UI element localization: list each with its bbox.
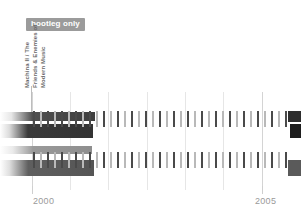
tick-row-lower xyxy=(0,152,301,168)
lower-tick-19 xyxy=(166,152,168,168)
lower-tick-13 xyxy=(124,152,126,168)
lower-tick-23 xyxy=(194,152,196,168)
gridline-3 xyxy=(147,92,148,190)
upper-tick-7 xyxy=(82,111,84,127)
lower-tick-35 xyxy=(278,152,280,168)
album-title-line-2: Friends & Enemies of xyxy=(32,25,38,88)
lower-tick-18 xyxy=(159,152,161,168)
lower-tick-0 xyxy=(33,152,35,168)
upper-tick-30 xyxy=(243,111,245,127)
lower-tick-16 xyxy=(145,152,147,168)
lower-tick-32 xyxy=(257,152,259,168)
upper-tick-3 xyxy=(54,111,56,127)
lower-tick-25 xyxy=(208,152,210,168)
lower-tick-27 xyxy=(222,152,224,168)
album-title-line-1: Machina II / The xyxy=(24,42,30,88)
upper-tick-36 xyxy=(285,111,287,127)
lower-tick-15 xyxy=(138,152,140,168)
timeline-visualization: bootleg only Machina II / The Friends & … xyxy=(0,0,301,218)
upper-tick-2 xyxy=(47,111,49,127)
lower-tick-20 xyxy=(173,152,175,168)
edge-block-middle xyxy=(290,124,301,138)
lower-tick-11 xyxy=(110,152,112,168)
lower-tick-29 xyxy=(236,152,238,168)
upper-tick-24 xyxy=(201,111,203,127)
album-title-line-3: Modern Music xyxy=(40,46,46,88)
upper-tick-11 xyxy=(110,111,112,127)
upper-tick-15 xyxy=(138,111,140,127)
upper-tick-9 xyxy=(96,111,98,127)
axis-tick-0 xyxy=(32,186,33,194)
lower-tick-8 xyxy=(89,152,91,168)
lower-tick-14 xyxy=(131,152,133,168)
album-title-label: Machina II / The Friends & Enemies of Mo… xyxy=(24,36,80,88)
lower-tick-6 xyxy=(75,152,77,168)
lower-tick-21 xyxy=(180,152,182,168)
upper-tick-21 xyxy=(180,111,182,127)
upper-tick-25 xyxy=(208,111,210,127)
lower-tick-28 xyxy=(229,152,231,168)
upper-tick-14 xyxy=(131,111,133,127)
upper-tick-4 xyxy=(61,111,63,127)
lower-tick-33 xyxy=(264,152,266,168)
gridline-5 xyxy=(223,92,224,190)
tick-row-upper xyxy=(0,111,301,127)
gridline-4 xyxy=(185,92,186,190)
upper-tick-22 xyxy=(187,111,189,127)
axis-year-2005: 2005 xyxy=(255,196,276,206)
axis-tick-1 xyxy=(262,186,263,194)
lower-tick-24 xyxy=(201,152,203,168)
upper-tick-35 xyxy=(278,111,280,127)
lower-tick-9 xyxy=(96,152,98,168)
upper-tick-17 xyxy=(152,111,154,127)
upper-tick-5 xyxy=(68,111,70,127)
upper-tick-0 xyxy=(33,111,35,127)
lower-tick-2 xyxy=(47,152,49,168)
upper-tick-20 xyxy=(173,111,175,127)
upper-tick-27 xyxy=(222,111,224,127)
upper-tick-34 xyxy=(271,111,273,127)
lower-tick-22 xyxy=(187,152,189,168)
edge-block-upper xyxy=(288,111,301,122)
lower-tick-5 xyxy=(68,152,70,168)
upper-tick-28 xyxy=(229,111,231,127)
upper-tick-12 xyxy=(117,111,119,127)
upper-tick-33 xyxy=(264,111,266,127)
lower-tick-26 xyxy=(215,152,217,168)
lower-tick-1 xyxy=(40,152,42,168)
upper-tick-13 xyxy=(124,111,126,127)
lower-tick-36 xyxy=(285,152,287,168)
lower-tick-10 xyxy=(103,152,105,168)
gridline-2 xyxy=(108,92,109,190)
upper-tick-26 xyxy=(215,111,217,127)
lower-tick-7 xyxy=(82,152,84,168)
upper-tick-19 xyxy=(166,111,168,127)
lower-tick-17 xyxy=(152,152,154,168)
edge-block-lower xyxy=(288,160,301,176)
upper-tick-31 xyxy=(250,111,252,127)
gridline-6 xyxy=(262,92,263,190)
label-leader-line xyxy=(31,86,32,112)
upper-tick-23 xyxy=(194,111,196,127)
upper-tick-6 xyxy=(75,111,77,127)
lower-tick-4 xyxy=(61,152,63,168)
lower-tick-30 xyxy=(243,152,245,168)
lower-tick-3 xyxy=(54,152,56,168)
axis-year-2000: 2000 xyxy=(33,196,54,206)
upper-tick-1 xyxy=(40,111,42,127)
upper-tick-18 xyxy=(159,111,161,127)
upper-tick-32 xyxy=(257,111,259,127)
lower-tick-12 xyxy=(117,152,119,168)
upper-tick-10 xyxy=(103,111,105,127)
lower-tick-34 xyxy=(271,152,273,168)
lower-tick-31 xyxy=(250,152,252,168)
upper-tick-29 xyxy=(236,111,238,127)
upper-tick-16 xyxy=(145,111,147,127)
upper-tick-8 xyxy=(89,111,91,127)
